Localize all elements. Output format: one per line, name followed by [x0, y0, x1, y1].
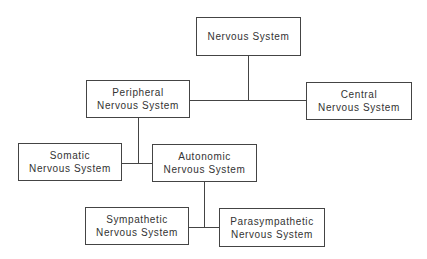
node-parasympathetic-nervous-system: Parasympathetic Nervous System	[219, 208, 325, 247]
node-label-line: Nervous System	[29, 162, 111, 175]
node-label-line: Nervous System	[96, 226, 178, 239]
node-label-line: Parasympathetic	[230, 215, 313, 228]
connector-peripheral-central	[190, 100, 306, 101]
node-autonomic-nervous-system: Autonomic Nervous System	[152, 144, 257, 182]
node-peripheral-nervous-system: Peripheral Nervous System	[86, 80, 190, 118]
node-label-line: Nervous System	[318, 101, 400, 114]
connector-peripheral-down	[138, 118, 139, 164]
node-label-line: Sympathetic	[106, 213, 168, 226]
connector-nervous-down	[248, 56, 249, 101]
node-sympathetic-nervous-system: Sympathetic Nervous System	[85, 207, 189, 245]
node-label-line: Somatic	[50, 149, 90, 162]
node-label-line: Central	[341, 88, 377, 101]
connector-sympathetic-parasympathetic	[189, 227, 219, 228]
node-label-line: Nervous System	[208, 30, 290, 43]
node-label-line: Autonomic	[178, 150, 231, 163]
connector-somatic-autonomic	[122, 163, 152, 164]
node-label-line: Nervous System	[231, 228, 313, 241]
node-somatic-nervous-system: Somatic Nervous System	[18, 143, 122, 181]
node-label-line: Nervous System	[164, 163, 246, 176]
node-central-nervous-system: Central Nervous System	[306, 82, 412, 120]
nervous-system-diagram: Nervous System Peripheral Nervous System…	[0, 0, 427, 259]
connector-autonomic-down	[204, 182, 205, 228]
node-label-line: Peripheral	[112, 86, 164, 99]
node-nervous-system: Nervous System	[196, 17, 301, 56]
node-label-line: Nervous System	[97, 99, 179, 112]
